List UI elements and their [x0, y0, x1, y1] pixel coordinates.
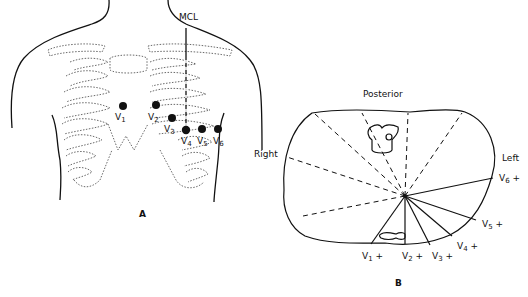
electrode-label-v1: V1 [115, 113, 126, 124]
lead-label-v4: V4 + [457, 242, 478, 253]
electrode-v2 [152, 101, 160, 109]
electrode-label-v6: V6 [213, 137, 224, 148]
electrode-v5 [198, 125, 206, 133]
posterior-label: Posterior [363, 90, 403, 99]
lead-label-v5: V5 + [482, 220, 503, 231]
right-label: Right [254, 150, 278, 159]
left-label: Left [502, 154, 519, 163]
electrode-v4 [182, 126, 190, 134]
electrode-v3 [168, 114, 176, 122]
rib-cage [48, 44, 232, 188]
figure-b-caption: B [395, 279, 402, 288]
negative-axes [287, 113, 462, 216]
lead-label-v3: V3 + [432, 252, 453, 263]
mcl-label: MCL [179, 13, 198, 22]
electrode-v6 [214, 125, 222, 133]
lead-label-v1: V1 + [362, 252, 383, 263]
torso-outline [11, 0, 262, 202]
electrode-label-v4: V4 [181, 137, 192, 148]
electrode-v1 [119, 102, 127, 110]
positive-axes [371, 178, 493, 245]
figure-a-caption: A [139, 210, 146, 219]
electrode-label-v5: V5 [197, 137, 208, 148]
electrode-label-v3: V3 [164, 125, 175, 136]
chest-cross-section [284, 110, 495, 245]
electrode-label-v2: V2 [148, 113, 159, 124]
lead-label-v2: V2 + [402, 252, 423, 263]
lead-label-v6: V6 + [499, 174, 520, 185]
